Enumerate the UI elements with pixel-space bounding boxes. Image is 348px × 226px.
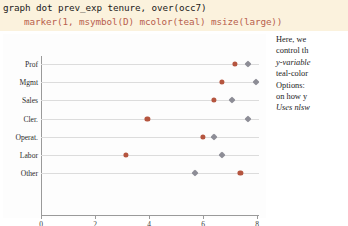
y-label-cler: Cler. xyxy=(23,115,38,124)
grid-row-other xyxy=(41,173,259,174)
data-point-prev-exp-labor xyxy=(218,151,225,158)
x-tick-0 xyxy=(41,215,42,219)
y-label-labor: Labor xyxy=(20,151,38,160)
code-line-1: graph dot prev_exp tenure, over(occ7) xyxy=(3,1,348,15)
data-point-tenure-labor xyxy=(123,152,128,157)
code-block: graph dot prev_exp tenure, over(occ7) ma… xyxy=(0,0,348,31)
side-line-4: teal-color xyxy=(276,68,348,79)
grid-row-prof xyxy=(41,64,259,65)
data-point-prev-exp-prof xyxy=(245,60,252,67)
y-axis-labels: Prof Mgmt Sales Cler. Operat. Labor Othe… xyxy=(0,56,38,209)
data-point-tenure-cler xyxy=(145,116,150,121)
x-tick-label-6: 6 xyxy=(201,220,205,226)
x-tick-label-2: 2 xyxy=(93,220,97,226)
data-point-prev-exp-other xyxy=(192,169,199,176)
screenshot-root: graph dot prev_exp tenure, over(occ7) ma… xyxy=(0,0,348,226)
x-tick-4 xyxy=(149,215,150,219)
data-point-tenure-operat xyxy=(201,134,206,139)
data-point-tenure-sales xyxy=(211,97,216,102)
y-label-mgmt: Mgmt xyxy=(19,78,38,87)
x-tick-label-0: 0 xyxy=(39,220,43,226)
side-line-2: control th xyxy=(276,45,348,56)
side-line-3: y-variable xyxy=(276,57,348,68)
y-label-operat: Operat. xyxy=(15,133,38,142)
side-line-7: Uses nlsw xyxy=(276,102,348,113)
data-point-prev-exp-cler xyxy=(245,115,252,122)
x-tick-label-4: 4 xyxy=(147,220,151,226)
y-label-other: Other xyxy=(21,169,38,178)
side-line-5: Options: xyxy=(276,80,348,91)
plot-region xyxy=(41,56,259,209)
x-axis-line xyxy=(41,215,259,216)
grid-row-mgmt xyxy=(41,82,259,83)
code-line-2: marker(1, msymbol(D) mcolor(teal) msize(… xyxy=(3,15,348,29)
grid-row-labor xyxy=(41,155,259,156)
data-point-prev-exp-operat xyxy=(210,133,217,140)
data-point-tenure-prof xyxy=(232,61,237,66)
y-label-prof: Prof xyxy=(25,60,38,69)
side-commentary: Here, we control th y-variable teal-colo… xyxy=(276,34,348,174)
side-line-6: on how y xyxy=(276,91,348,102)
y-label-sales: Sales xyxy=(22,96,38,105)
grid-row-sales xyxy=(41,100,259,101)
data-point-tenure-other xyxy=(238,170,243,175)
grid-row-operat xyxy=(41,137,259,138)
side-line-1: Here, we xyxy=(276,34,348,45)
data-point-prev-exp-mgmt xyxy=(253,78,260,85)
x-tick-8 xyxy=(257,215,258,219)
x-tick-2 xyxy=(95,215,96,219)
grid-row-cler xyxy=(41,119,259,120)
x-tick-6 xyxy=(203,215,204,219)
x-tick-label-8: 8 xyxy=(255,220,259,226)
data-point-tenure-mgmt xyxy=(219,79,224,84)
data-point-prev-exp-sales xyxy=(229,96,236,103)
dot-plot: 0 2 4 6 8 Prof Mgmt Sales Cler. Operat. … xyxy=(0,31,272,226)
